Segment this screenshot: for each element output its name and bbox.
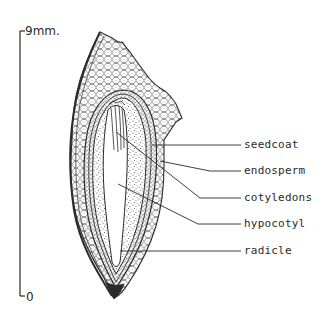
scale-bar [20, 31, 25, 296]
label-radicle: radicle [244, 245, 292, 257]
scale-bottom-label: 0 [26, 291, 34, 303]
label-seedcoat: seedcoat [244, 139, 299, 151]
seed-illustration [0, 0, 323, 315]
scale-top-label: 9mm. [25, 25, 60, 37]
label-hypocotyl: hypocotyl [244, 218, 305, 230]
label-cotyledons: cotyledons [244, 192, 312, 204]
label-endosperm: endosperm [244, 165, 305, 177]
